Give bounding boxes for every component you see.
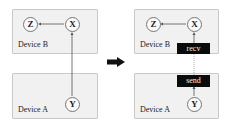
node-y: Y bbox=[187, 97, 202, 112]
node-z: Z bbox=[146, 17, 161, 32]
arrowhead-icon bbox=[193, 32, 196, 35]
send-op: send bbox=[177, 75, 210, 87]
node-x: X bbox=[187, 17, 202, 32]
recv-op: recv bbox=[177, 43, 210, 54]
after-panel: Device B Device A Z X Y recv send bbox=[0, 0, 115, 127]
